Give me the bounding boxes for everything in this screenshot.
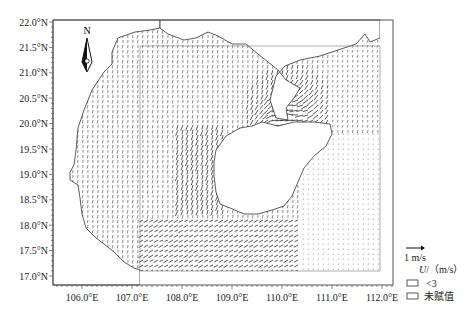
x-tick-label: 107.0°E [116,292,149,303]
scale-arrow: 1 m/s [404,246,426,264]
north-arrow-label: N [83,25,90,36]
legend-title-unit: /（m/s） [426,264,463,275]
y-tick-label: 19.0°N [19,169,48,180]
y-tick-label: 18.5°N [19,194,48,205]
y-tick-label: 19.5°N [19,144,48,155]
legend: 1 m/s U/（m/s） <3 未赋值 [404,246,463,303]
y-tick-label: 17.5°N [19,245,48,256]
x-tick-label: 110.0°E [266,292,298,303]
y-tick-label: 17.0°N [19,271,48,282]
y-tick-label: 18.0°N [19,220,48,231]
land-mainland-west [53,20,160,285]
scale-label: 1 m/s [404,252,426,263]
x-tick-label: 112.0°E [366,292,398,303]
y-tick-label: 21.0°N [19,67,48,78]
current-vector-map: 22.0°N21.5°N21.0°N20.5°N20.0°N19.5°N19.0… [0,0,474,321]
x-tick-label: 109.0°E [216,292,249,303]
y-tick-label: 22.0°N [19,17,48,28]
x-tick-label: 111.0°E [316,292,348,303]
land-hainan [214,122,332,214]
x-tick-label: 106.0°E [66,292,99,303]
legend-label-unassigned: 未赋值 [424,290,454,302]
y-tick-label: 20.0°N [19,118,48,129]
legend-swatch-lt3 [407,280,418,286]
y-tick-label: 21.5°N [19,42,48,53]
legend-label-lt3: <3 [426,278,437,289]
x-tick-label: 108.0°E [166,292,199,303]
y-axis: 22.0°N21.5°N21.0°N20.5°N20.0°N19.5°N19.0… [19,17,53,282]
x-axis: 106.0°E107.0°E108.0°E109.0°E110.0°E111.0… [57,285,398,303]
legend-swatch-unassigned [407,293,418,299]
legend-title: U/（m/s） [419,264,463,275]
y-tick-label: 20.5°N [19,93,48,104]
